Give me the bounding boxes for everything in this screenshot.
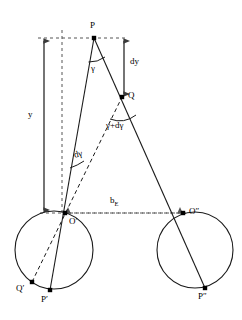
label-measure-bE-subscript: E [115,200,119,207]
label-measure-dy: dy [130,57,139,66]
point-marker-P-double-prime [203,286,207,290]
parallax-diagram: P Q O′ O″ Q′ P′ P″ y dy bE γ γ+dγ dγ [0,0,242,320]
diagram-canvas [0,0,242,320]
point-marker-Q-prime [30,280,34,284]
point-marker-Q [120,95,124,99]
label-point-P-double-prime: P″ [198,292,207,301]
earth-circle-right [157,212,233,288]
label-measure-bE: bE [110,196,118,207]
label-point-O-double-prime: O″ [189,207,199,216]
sightline-Pdoubleprime-Odoubleprime-Q-P [94,38,205,288]
sightline-Pprime-Oprime-P [50,38,94,290]
earth-circle-left [15,211,93,289]
label-point-O-prime: O′ [69,217,77,226]
point-marker-P-prime [48,288,52,292]
label-measure-y: y [28,110,33,119]
point-marker-P [92,36,96,40]
label-point-P: P [90,21,95,30]
point-marker-O-prime [63,211,67,215]
label-point-P-prime: P′ [41,295,48,304]
label-angle-gamma: γ [91,64,95,73]
point-marker-O-double-prime [181,211,185,215]
label-point-Q-prime: Q′ [16,284,24,293]
label-point-Q: Q [128,91,135,100]
label-angle-gamma-plus-dgamma: γ+dγ [106,121,124,130]
